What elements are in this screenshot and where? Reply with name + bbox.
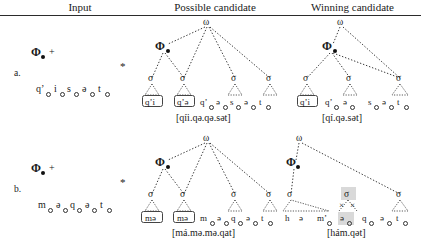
cand-b-possible-boxed-0: mə	[145, 214, 156, 223]
cand-b-winning-seg-0: h	[285, 214, 290, 223]
cand-a-possible-boxed-0: qʼi	[145, 98, 155, 107]
cand-b-winning-seg-2: mʼ	[317, 214, 327, 223]
input-b-phi: Φ	[31, 162, 41, 174]
cand-b-possible-seg-3: ə	[246, 214, 250, 223]
cand-a-possible-omega: ω	[203, 18, 209, 28]
cand-a-winning-seg-1: ə	[343, 98, 347, 107]
cand-b-winning-sigma-2: σ	[396, 190, 401, 200]
input-b-plus: +	[49, 163, 55, 173]
input-b-seg-0: m	[38, 200, 46, 210]
cand-b-possible-omega: ω	[203, 134, 209, 144]
cand-b-possible-seg-0: m	[200, 214, 207, 223]
cand-a-winning-omega: ω	[337, 18, 343, 28]
cand-a-possible-seg-4: t	[259, 98, 262, 107]
cand-b-possible-sigma-2: σ	[231, 190, 236, 200]
cand-b-possible-sigma-0: σ	[148, 190, 153, 200]
cand-b-winning-output: [hám.qət]	[327, 228, 366, 238]
cand-a-winning-seg-4: t	[397, 98, 400, 107]
cand-a-possible-seg-2: s	[230, 98, 234, 107]
cand-b-winning-phi: Φ	[286, 156, 296, 168]
figure-tableau: Input Possible candidate Winning candida…	[0, 0, 421, 238]
cand-a-possible-phi: Φ	[155, 40, 165, 52]
cand-b-possible-output: [má.mə.mə.qat]	[172, 228, 235, 238]
input-b-seg-1: ə	[56, 200, 60, 210]
input-b-seg-3: ə	[85, 200, 89, 210]
cand-a-possible-sigma-2: σ	[231, 74, 236, 84]
cand-a-possible-sigma-3: σ	[266, 74, 271, 84]
cand-a-possible-seg-3: ə	[244, 98, 248, 107]
cand-a-winning-sigma-0: σ	[303, 74, 308, 84]
cand-a-winning-sigma-1: σ	[346, 74, 351, 84]
cand-b-winning-seg-5: ə	[380, 214, 384, 223]
cand-b-possible-seg-1: ə	[217, 214, 221, 223]
input-b-seg-4: t	[100, 200, 103, 210]
cand-b-winning-delink-x-0: ×	[339, 201, 344, 210]
cand-a-winning-boxed-0: qʼi	[300, 98, 310, 107]
input-b-star: *	[120, 177, 126, 188]
cand-b-winning-sigma-0: σ	[287, 190, 292, 200]
cand-a-winning-output: [qí.qə.sət]	[322, 113, 362, 123]
input-a-plus: +	[49, 47, 55, 57]
input-a-seg-4: t	[98, 84, 101, 94]
cand-a-possible-seg-1: ə	[216, 98, 220, 107]
input-a-phi: Φ	[31, 46, 41, 58]
input-a-seg-1: i	[54, 84, 57, 94]
cand-a-winning-seg-0: qʼ	[325, 98, 333, 107]
input-a-seg-2: s	[67, 84, 71, 94]
cand-b-winning-seg-6: t	[396, 214, 399, 223]
cand-b-possible-boxed-1: mə	[177, 214, 188, 223]
cand-a-possible-seg-0: qʼ	[200, 98, 208, 107]
cand-b-winning-seg-3: ə	[340, 214, 344, 223]
cand-b-winning-seg-1: ə	[299, 214, 303, 223]
row-label-a: a.	[14, 69, 21, 79]
cand-a-winning-sigma-2: σ	[396, 74, 401, 84]
cand-b-possible-seg-4: t	[261, 214, 264, 223]
cand-b-possible-sigma-3: σ	[266, 190, 271, 200]
cand-a-winning-seg-3: ə	[382, 98, 386, 107]
cand-b-possible-sigma-1: σ	[180, 190, 185, 200]
input-a-seg-3: ə	[82, 84, 86, 94]
input-b-seg-2: q	[70, 200, 75, 210]
cand-b-possible-seg-2: q	[231, 214, 236, 223]
cand-b-winning-delinked-sigma: σ	[344, 190, 349, 200]
cand-a-winning-seg-2: s	[368, 98, 372, 107]
cand-b-winning-omega: ω	[296, 134, 302, 144]
cand-b-winning-delink-x-1: ×	[350, 201, 355, 210]
cand-b-possible-phi: Φ	[155, 156, 165, 168]
cand-a-possible-boxed-1: qʼə	[177, 98, 189, 107]
row-label-b: b.	[14, 185, 21, 195]
input-a-star: *	[120, 61, 126, 72]
cand-a-winning-phi: Φ	[322, 40, 332, 52]
input-a-seg-0: qʼ	[36, 84, 44, 94]
cand-b-winning-seg-4: q	[362, 214, 367, 223]
cand-a-possible-sigma-0: σ	[148, 74, 153, 84]
cand-a-possible-sigma-1: σ	[180, 74, 185, 84]
cand-a-possible-output: [qíi.qə.qə.sət]	[176, 113, 231, 123]
